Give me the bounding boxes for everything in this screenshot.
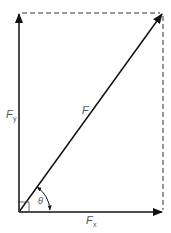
resultant-force-arrow	[19, 14, 162, 212]
x-component-subscript: x	[93, 221, 97, 228]
y-component-subscript: y	[13, 115, 17, 123]
force-diagram: θ F F y F x	[0, 0, 171, 233]
angle-label: θ	[38, 196, 43, 206]
